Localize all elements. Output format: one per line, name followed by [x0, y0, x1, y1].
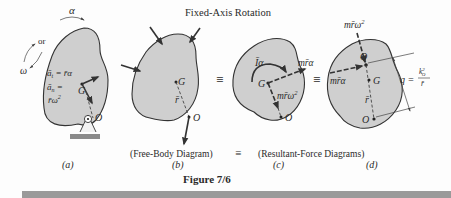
pin-reaction-force — [184, 117, 189, 144]
point-O-label: O — [95, 112, 102, 123]
rigid-body-b — [132, 34, 199, 121]
panel-a: α or ω āt = r̄α ān = r̄ω2 G O (a) — [20, 4, 108, 171]
or-label: or — [38, 36, 46, 46]
figure-caption: Figure 7/6 — [183, 173, 231, 185]
equiv-symbol-bc: ≡ — [216, 72, 223, 87]
moment-label: Īα — [254, 57, 264, 68]
center-of-mass-G — [368, 79, 371, 82]
pivot-center — [87, 118, 89, 120]
alpha-label: α — [69, 4, 75, 16]
pivot-point-O — [372, 117, 375, 120]
alpha-arrow — [60, 17, 84, 20]
q-numerator: k2O — [419, 67, 426, 77]
figure-title: Fixed-Axis Rotation — [185, 7, 272, 18]
panel-a-label: (a) — [62, 159, 74, 171]
point-G-label: G — [373, 75, 380, 86]
free-body-caption: (Free-Body Diagram) — [130, 149, 213, 160]
equiv-symbol-caption: ≡ — [235, 147, 241, 159]
rigid-body-c — [233, 39, 305, 121]
panel-c-label: (c) — [273, 159, 285, 171]
pivot-point-O — [280, 116, 283, 119]
equiv-symbol-cd: ≡ — [313, 72, 320, 87]
panel-d-label: (d) — [366, 159, 378, 171]
ground-base — [70, 134, 100, 139]
resultant-caption: (Resultant-Force Diagrams) — [258, 149, 364, 160]
tangential-force-label: mr̄α — [298, 58, 315, 68]
an-equation: ān = — [47, 82, 63, 93]
point-G-label: G — [258, 78, 265, 89]
point-G-label: G — [178, 76, 185, 87]
point-O-label: O — [193, 112, 200, 123]
panel-b-label: (b) — [172, 159, 184, 171]
bottom-divider-bar — [22, 191, 451, 198]
external-force-1 — [150, 27, 162, 44]
tangential-force-label: mr̄α — [330, 76, 347, 86]
external-force-2 — [190, 28, 200, 42]
omega-arrow-cw — [30, 52, 42, 68]
omega-label: ω — [20, 65, 27, 76]
fixed-axis-rotation-figure: Fixed-Axis Rotation α or ω āt = r̄α ān =… — [0, 0, 451, 198]
omega-arrow-ccw — [24, 44, 35, 62]
normal-force-label: mr̄ω2 — [344, 18, 365, 30]
point-Q-label: Q — [360, 51, 368, 62]
point-O-label: O — [285, 112, 292, 123]
q-label: q = — [400, 74, 414, 85]
q-denominator: r̄ — [421, 79, 424, 88]
at-equation: āt = r̄α — [47, 68, 72, 79]
point-O-label: O — [362, 114, 369, 125]
